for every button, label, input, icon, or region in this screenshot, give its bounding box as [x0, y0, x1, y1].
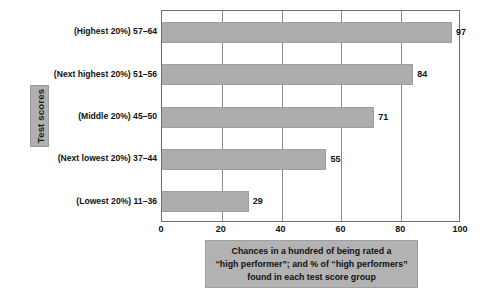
- caption-line-2: “high performer”; and % of “high perform…: [215, 258, 407, 271]
- x-tick-label: 20: [216, 224, 226, 234]
- x-tick-label: 100: [452, 224, 467, 234]
- y-tick-label: (Lowest 20%) 11–36: [76, 196, 157, 206]
- bar: [162, 191, 249, 212]
- chart-caption: Chances in a hundred of being rated a “h…: [205, 240, 418, 288]
- plot-area: 9784715529: [161, 10, 460, 222]
- chart-figure: Test scores (Highest 20%) 57–64(Next hig…: [0, 0, 489, 298]
- bar-value-label: 84: [413, 64, 427, 85]
- bar: [162, 149, 326, 170]
- bar-value-label: 55: [326, 149, 340, 170]
- y-tick-label: (Highest 20%) 57–64: [74, 26, 157, 36]
- bar: [162, 64, 413, 85]
- x-tick-label: 0: [158, 224, 163, 234]
- y-tick-label: (Next highest 20%) 51–56: [54, 69, 157, 79]
- bar: [162, 22, 452, 43]
- y-tick-label: (Next lowest 20%) 37–44: [58, 153, 157, 163]
- bar-value-label: 29: [249, 191, 263, 212]
- bar-value-label: 97: [452, 22, 466, 43]
- y-axis-group-label: Test scores: [30, 85, 49, 147]
- bar-value-label: 71: [374, 107, 388, 128]
- x-tick-label: 40: [276, 224, 286, 234]
- x-tick-label: 60: [335, 224, 345, 234]
- x-tick-label: 80: [395, 224, 405, 234]
- bar: [162, 107, 374, 128]
- caption-line-1: Chances in a hundred of being rated a: [232, 245, 392, 258]
- y-tick-label: (Middle 20%) 45–50: [78, 111, 157, 121]
- caption-line-3: found in each test score group: [247, 271, 376, 284]
- y-axis-group-label-text: Test scores: [34, 89, 45, 143]
